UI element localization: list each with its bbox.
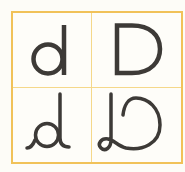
cursive-uppercase-d-glyph [92, 88, 181, 162]
cell-cursive-uppercase-d: D [92, 88, 181, 162]
cell-print-lowercase-d: d [13, 13, 91, 87]
print-uppercase-d-glyph [92, 13, 181, 87]
cell-print-uppercase-d: D [92, 13, 181, 87]
cell-cursive-lowercase-d: d [13, 88, 91, 162]
print-lowercase-d-glyph [13, 13, 91, 87]
cursive-lowercase-d-glyph [13, 88, 91, 162]
letter-grid: d D d D [11, 11, 183, 164]
